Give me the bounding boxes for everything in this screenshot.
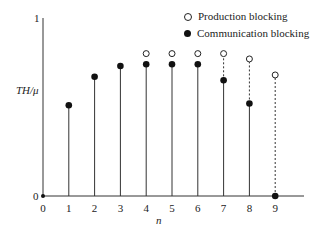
y-axis-label: TH/μ <box>16 84 39 96</box>
production-point <box>195 51 201 57</box>
production-point <box>169 51 175 57</box>
x-tick-1: 1 <box>62 202 76 214</box>
communication-point <box>66 102 73 109</box>
y-tick-1: 1 <box>34 12 40 24</box>
communication-point <box>195 61 202 68</box>
stems <box>41 51 279 200</box>
legend-item-production: Production blocking <box>184 8 309 25</box>
communication-point <box>220 77 227 84</box>
communication-point <box>91 73 98 80</box>
x-axis-label: n <box>156 214 162 226</box>
x-tick-3: 3 <box>113 202 127 214</box>
filled-circle-icon <box>184 30 191 37</box>
production-point <box>272 72 278 78</box>
x-tick-6: 6 <box>191 202 205 214</box>
x-tick-9: 9 <box>268 202 282 214</box>
x-tick-5: 5 <box>165 202 179 214</box>
open-circle-icon <box>184 13 192 21</box>
x-tick-7: 7 <box>217 202 231 214</box>
communication-point <box>169 61 176 68</box>
x-tick-2: 2 <box>88 202 102 214</box>
communication-point <box>272 193 279 200</box>
communication-point <box>41 194 45 198</box>
x-tick-8: 8 <box>242 202 256 214</box>
production-point <box>143 51 149 57</box>
x-tick-0: 0 <box>36 202 50 214</box>
communication-point <box>143 61 150 68</box>
communication-point <box>246 100 253 107</box>
legend-item-communication: Communication blocking <box>184 25 309 42</box>
production-point <box>221 51 227 57</box>
legend: Production blocking Communication blocki… <box>184 8 309 42</box>
y-tick-0: 0 <box>33 190 39 202</box>
x-tick-4: 4 <box>139 202 153 214</box>
communication-point <box>117 63 124 70</box>
production-point <box>246 56 252 62</box>
